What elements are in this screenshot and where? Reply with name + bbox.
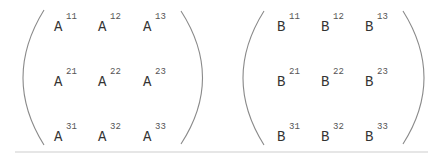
matrix-entry: B12 bbox=[321, 12, 344, 35]
entry-superscript: 21 bbox=[66, 67, 77, 77]
matrix-entry: B32 bbox=[321, 122, 344, 145]
entry-symbol: B bbox=[365, 74, 373, 90]
entry-symbol: A bbox=[98, 19, 107, 35]
entry-superscript: 11 bbox=[289, 12, 300, 22]
entry-superscript: 22 bbox=[333, 67, 344, 77]
entry-superscript: 22 bbox=[110, 67, 121, 77]
matrix-entry: A13 bbox=[143, 12, 166, 35]
matrix-entry: B21 bbox=[277, 67, 300, 90]
entry-superscript: 12 bbox=[110, 12, 121, 22]
matrix-entry: B33 bbox=[365, 122, 388, 145]
matrix-entry: B23 bbox=[365, 67, 388, 90]
matrix-entry: A12 bbox=[98, 12, 121, 35]
matrix-entry: B22 bbox=[321, 67, 344, 90]
entry-symbol: B bbox=[321, 19, 329, 35]
entry-symbol: A bbox=[143, 74, 152, 90]
entry-superscript: 21 bbox=[289, 67, 300, 77]
entry-superscript: 31 bbox=[66, 122, 77, 132]
left-parenthesis bbox=[23, 10, 44, 145]
entry-superscript: 12 bbox=[333, 12, 344, 22]
matrix-entry: A33 bbox=[143, 122, 166, 145]
entry-symbol: B bbox=[365, 129, 373, 145]
matrix-diagram: A11A12A13A21A22A23A31A32A33 B11B12B13B21… bbox=[0, 0, 447, 156]
entry-superscript: 33 bbox=[377, 122, 388, 132]
matrix-entries: B11B12B13B21B22B23B31B32B33 bbox=[277, 12, 388, 145]
entry-symbol: B bbox=[321, 74, 329, 90]
entry-symbol: B bbox=[321, 129, 329, 145]
entry-symbol: A bbox=[54, 74, 63, 90]
entry-symbol: A bbox=[98, 129, 107, 145]
entry-superscript: 32 bbox=[110, 122, 121, 132]
matrix-entry: A22 bbox=[98, 67, 121, 90]
entry-superscript: 33 bbox=[155, 122, 166, 132]
matrix-entries: A11A12A13A21A22A23A31A32A33 bbox=[54, 12, 166, 145]
right-parenthesis bbox=[403, 11, 424, 144]
entry-symbol: A bbox=[98, 74, 107, 90]
entry-symbol: B bbox=[277, 129, 285, 145]
entry-symbol: A bbox=[143, 19, 152, 35]
matrix-entry: B31 bbox=[277, 122, 300, 145]
matrix-entry: A11 bbox=[54, 12, 77, 35]
right-parenthesis bbox=[181, 11, 203, 144]
matrix-entry: A23 bbox=[143, 67, 166, 90]
entry-superscript: 13 bbox=[377, 12, 388, 22]
entry-superscript: 31 bbox=[289, 122, 300, 132]
entry-symbol: B bbox=[277, 19, 285, 35]
entry-symbol: A bbox=[54, 19, 63, 35]
matrix-b: B11B12B13B21B22B23B31B32B33 bbox=[243, 11, 424, 145]
matrix-entry: A32 bbox=[98, 122, 121, 145]
matrix-entry: A21 bbox=[54, 67, 77, 90]
matrix-a: A11A12A13A21A22A23A31A32A33 bbox=[23, 10, 203, 145]
entry-superscript: 23 bbox=[377, 67, 388, 77]
entry-superscript: 23 bbox=[155, 67, 166, 77]
entry-superscript: 11 bbox=[66, 12, 77, 22]
matrix-entry: B11 bbox=[277, 12, 300, 35]
entry-symbol: B bbox=[277, 74, 285, 90]
entry-superscript: 13 bbox=[155, 12, 166, 22]
left-parenthesis bbox=[243, 11, 264, 145]
matrix-entry: A31 bbox=[54, 122, 77, 145]
entry-superscript: 32 bbox=[333, 122, 344, 132]
entry-symbol: A bbox=[143, 129, 152, 145]
entry-symbol: B bbox=[365, 19, 373, 35]
entry-symbol: A bbox=[54, 129, 63, 145]
matrix-entry: B13 bbox=[365, 12, 388, 35]
